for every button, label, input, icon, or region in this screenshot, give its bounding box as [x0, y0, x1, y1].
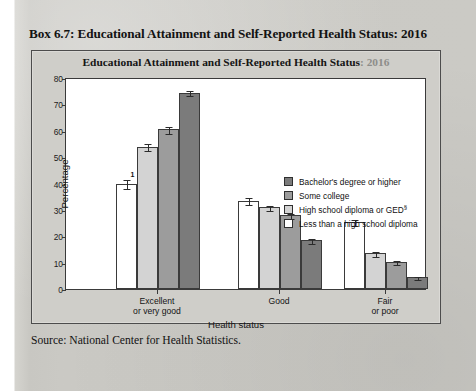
- bar-2-0: [344, 222, 365, 289]
- error-cap-0-3-low: [186, 96, 193, 97]
- x-category-label-2: Fairor poor: [371, 296, 398, 316]
- legend-label-text-3: Less than a high school diploma: [299, 219, 418, 229]
- y-tick-mark-50: [62, 158, 66, 159]
- legend-label-0: Bachelor's degree or higher: [299, 177, 401, 187]
- x-category-line2-0: or very good: [133, 306, 181, 316]
- bar-1-1: [259, 207, 280, 289]
- error-cap-0-0-low: [123, 189, 130, 190]
- bar-2-1: [365, 253, 386, 289]
- bar-1-0: [238, 201, 259, 289]
- bar-0-0: [116, 184, 137, 290]
- y-tick-mark-60: [62, 132, 66, 133]
- error-bar-0-2: [169, 127, 170, 134]
- x-category-label-0: Excellentor very good: [133, 296, 181, 316]
- error-cap-0-2-high: [165, 127, 172, 128]
- legend-item-3: Less than a high school diploma: [284, 217, 418, 230]
- box-title: Box 6.7: Educational Attainment and Self…: [29, 26, 447, 42]
- error-cap-0-0-high: [123, 180, 130, 181]
- bar-1-3: [301, 240, 322, 289]
- y-tick-mark-80: [62, 79, 66, 80]
- y-tick-mark-30: [62, 211, 66, 212]
- error-cap-2-1-low: [372, 257, 379, 258]
- x-category-line2-2: or poor: [371, 306, 398, 316]
- y-tick-mark-10: [62, 264, 66, 265]
- source-note: Source: National Center for Health Stati…: [31, 334, 241, 347]
- error-cap-2-3-high: [414, 277, 421, 278]
- x-category-line1-2: Fair: [371, 296, 398, 306]
- error-cap-1-0-low: [245, 205, 252, 206]
- chart-title-year: : 2016: [360, 56, 389, 68]
- bar-0-2: [158, 129, 179, 289]
- error-cap-2-2-low: [393, 265, 400, 266]
- bar-footnote-marker: 1: [131, 171, 135, 178]
- bar-2-2: [386, 262, 407, 289]
- legend-label-3: Less than a high school diploma: [299, 219, 418, 229]
- y-tick-mark-0: [62, 290, 66, 291]
- error-cap-1-0-high: [245, 198, 252, 199]
- x-axis-line: [65, 289, 426, 290]
- legend-swatch-2: [284, 205, 293, 214]
- legend-swatch-3: [284, 219, 293, 228]
- error-cap-1-3-low: [308, 244, 315, 245]
- figure-frame: Educational Attainment and Self-Reported…: [31, 50, 441, 324]
- error-cap-1-1-low: [266, 211, 273, 212]
- error-cap-0-1-high: [144, 144, 151, 145]
- legend-swatch-0: [284, 177, 293, 186]
- chart-legend: Bachelor's degree or higherSome collegeH…: [284, 175, 418, 231]
- chart-title: Educational Attainment and Self-Reported…: [32, 56, 440, 68]
- x-category-line1-0: Excellent: [133, 296, 181, 306]
- legend-label-text-2: High school diploma or GED: [299, 205, 404, 215]
- x-category-label-1: Good: [268, 296, 289, 306]
- legend-footnote-marker-2: §: [404, 204, 407, 210]
- y-tick-mark-20: [62, 237, 66, 238]
- legend-item-2: High school diploma or GED§: [284, 203, 418, 216]
- y-tick-mark-70: [62, 105, 66, 106]
- error-cap-0-3-high: [186, 91, 193, 92]
- x-tick-mark-2: [385, 289, 386, 294]
- legend-label-1: Some college: [299, 191, 349, 201]
- error-cap-2-2-high: [393, 261, 400, 262]
- error-bar-0-0: [127, 180, 128, 188]
- error-cap-0-2-low: [165, 134, 172, 135]
- error-cap-1-1-high: [266, 206, 273, 207]
- bar-0-3: [179, 93, 200, 289]
- legend-label-text-1: Some college: [299, 191, 349, 201]
- chart-title-main: Educational Attainment and Self-Reported…: [83, 56, 361, 68]
- error-cap-2-3-low: [414, 280, 421, 281]
- error-cap-0-1-low: [144, 151, 151, 152]
- x-tick-mark-0: [157, 289, 158, 294]
- bar-0-1: [137, 147, 158, 289]
- legend-label-2: High school diploma or GED§: [299, 204, 407, 215]
- y-tick-mark-40: [62, 185, 66, 186]
- x-axis-label: Health status: [32, 319, 440, 330]
- x-tick-mark-1: [279, 289, 280, 294]
- legend-label-text-0: Bachelor's degree or higher: [299, 177, 401, 187]
- plot-area: Percentage 01020304050607080 1 Bachelor'…: [65, 78, 426, 289]
- legend-swatch-1: [284, 191, 293, 200]
- x-category-line1-1: Good: [268, 296, 289, 306]
- legend-item-0: Bachelor's degree or higher: [284, 175, 418, 188]
- error-cap-2-1-high: [372, 252, 379, 253]
- figure-box: Box 6.7: Educational Attainment and Self…: [25, 22, 448, 370]
- legend-item-1: Some college: [284, 189, 418, 202]
- error-cap-1-3-high: [308, 239, 315, 240]
